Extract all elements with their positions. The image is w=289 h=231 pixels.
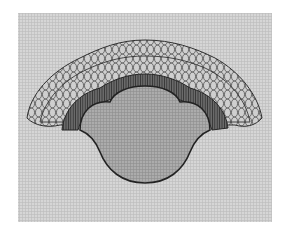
organism-illustration: [0, 0, 289, 231]
